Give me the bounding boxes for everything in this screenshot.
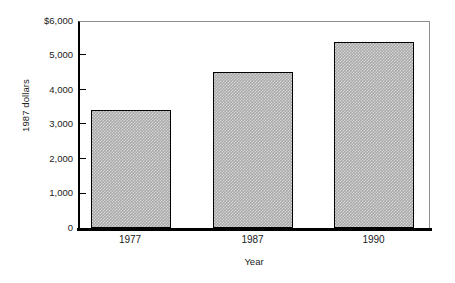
x-axis-title: Year	[78, 256, 430, 267]
x-tick-label-1977: 1977	[90, 234, 170, 245]
y-tick-label-5000: 5,000	[25, 49, 73, 60]
x-tick-label-1990: 1990	[333, 234, 414, 245]
y-tick-label-0: 0	[25, 222, 73, 233]
bar-1990[interactable]	[334, 42, 415, 228]
x-tick-label-1987: 1987	[212, 234, 293, 245]
y-tick-mark-5000	[78, 54, 86, 55]
x-axis-line	[77, 228, 432, 231]
y-tick-label-6000: $6,000	[25, 15, 73, 26]
y-tick-mark-1000	[78, 193, 86, 194]
y-tick-mark-4000	[78, 89, 86, 90]
y-tick-mark-3000	[78, 123, 86, 124]
bar-1987[interactable]	[213, 72, 294, 228]
y-tick-mark-2000	[78, 158, 86, 159]
y-tick-label-3000: 3,000	[25, 118, 73, 129]
bar-1977[interactable]	[91, 110, 171, 229]
y-axis-tick-labels: $6,000 5,000 4,000 3,000 2,000 1,000 0	[25, 0, 73, 283]
y-tick-label-4000: 4,000	[25, 84, 73, 95]
y-tick-label-1000: 1,000	[25, 187, 73, 198]
bar-chart: 1987 dollars $6,000 5,000 4,000 3,000 2,…	[0, 0, 455, 283]
y-tick-label-2000: 2,000	[25, 153, 73, 164]
